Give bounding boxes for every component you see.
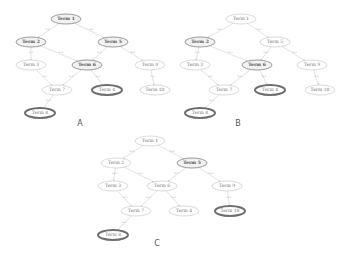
node-term-5: Term 5 <box>177 158 207 168</box>
node-term-1: Term 1 <box>135 136 165 146</box>
edge-label: is-a <box>46 99 51 102</box>
node-term-4: Term 4 <box>92 85 122 95</box>
edge-label: is-a <box>89 28 94 31</box>
node-label: Term 6 <box>248 62 266 67</box>
panel-label-a: A <box>77 119 83 128</box>
edge-label: is-a <box>174 172 179 175</box>
node-label: Term 10 <box>146 87 165 92</box>
edge-label: is-a <box>29 51 34 54</box>
edge-label: is-a <box>97 51 102 54</box>
node-label: Term 4 <box>262 87 278 92</box>
node-term-4: Term 4 <box>255 85 285 95</box>
nodes-layer: Term 1Term 2Term 5Term 3Term 6Term 9Term… <box>16 14 335 240</box>
node-term-9: Term 9 <box>297 60 327 70</box>
edge-label: is-a <box>43 75 48 78</box>
node-label: Term 1 <box>233 16 249 21</box>
node-label: Term 1 <box>57 16 75 21</box>
node-label: Term 8 <box>192 110 208 115</box>
node-label: Term 9 <box>142 62 158 67</box>
node-term-6: Term 6 <box>242 60 272 70</box>
node-term-6: Term 6 <box>147 181 177 191</box>
panel-label-c: C <box>154 239 160 248</box>
node-term-3: Term 3 <box>98 181 128 191</box>
edge-label: is-a <box>237 75 242 78</box>
node-label: Term 5 <box>183 160 201 165</box>
node-term-6: Term 6 <box>72 60 102 70</box>
node-term-2: Term 2 <box>101 158 131 168</box>
node-label: Term 3 <box>23 62 39 67</box>
node-label: Term 8 <box>105 232 121 237</box>
edge-label: is-a <box>95 75 100 78</box>
edge-label: is-a <box>150 75 155 78</box>
diagram-canvas: is-ais-ais-ais-ais-ais-ais-ais-ais-ais-a… <box>0 0 341 259</box>
term-hierarchy-diagrams: is-ais-ais-ais-ais-ais-ais-ais-ais-ais-a… <box>0 0 341 259</box>
edge-label: is-a <box>130 51 135 54</box>
panel-label-b: B <box>235 119 241 128</box>
edge-label: is-a <box>130 150 135 153</box>
edge-label: is-a <box>263 51 268 54</box>
node-term-3: Term 3 <box>16 60 46 70</box>
node-label: Term 8 <box>32 110 48 115</box>
node-label: Term 6 <box>154 183 170 188</box>
node-label: Term 1 <box>142 138 158 143</box>
edge-label: is-a <box>138 172 143 175</box>
edge-label: is-a <box>170 150 175 153</box>
edge-label: is-a <box>217 28 222 31</box>
node-label: Term 10 <box>221 208 240 213</box>
node-term-1: Term 1 <box>51 14 81 24</box>
edge-label: is-a <box>195 51 200 54</box>
edge-label: is-a <box>262 75 267 78</box>
node-label: Term 7 <box>216 87 232 92</box>
node-label: Term 3 <box>187 62 203 67</box>
edge-label: is-a <box>208 172 213 175</box>
node-label: Term 2 <box>191 39 209 44</box>
node-term-9: Term 9 <box>212 181 242 191</box>
node-label: Term 9 <box>304 62 320 67</box>
edge-label: is-a <box>257 28 262 31</box>
node-term-10: Term 10 <box>305 85 335 95</box>
edge-label: is-a <box>59 51 64 54</box>
node-label: Term 4 <box>99 87 115 92</box>
node-term-8: Term 8 <box>25 108 55 118</box>
edge-label: is-a <box>292 51 297 54</box>
node-label: Term 7 <box>128 208 144 213</box>
edge-label: is-a <box>171 196 176 199</box>
edge-label: is-a <box>228 51 233 54</box>
node-term-1: Term 1 <box>226 14 256 24</box>
node-term-7: Term 7 <box>42 85 72 95</box>
edge-label: is-a <box>112 172 117 175</box>
node-term-9: Term 9 <box>135 60 165 70</box>
node-label: Term 2 <box>22 39 40 44</box>
edges-layer: is-ais-ais-ais-ais-ais-ais-ais-ais-ais-a… <box>29 23 319 230</box>
node-term-8: Term 8 <box>185 108 215 118</box>
node-label: Term 6 <box>78 62 96 67</box>
node-term-3: Term 3 <box>180 60 210 70</box>
node-term-7: Term 7 <box>121 206 151 216</box>
edge-label: is-a <box>122 221 127 224</box>
node-label: Term 5 <box>267 39 283 44</box>
node-label: Term 7 <box>49 87 65 92</box>
node-label: Term 2 <box>108 160 124 165</box>
node-term-2: Term 2 <box>16 37 46 47</box>
node-term-5: Term 5 <box>260 37 290 47</box>
edge-label: is-a <box>209 99 214 102</box>
node-term-5: Term 5 <box>98 37 128 47</box>
node-term-10: Term 10 <box>215 206 245 216</box>
node-label: Term 10 <box>311 87 330 92</box>
edge-label: is-a <box>208 75 213 78</box>
node-label: Term 4 <box>176 208 192 213</box>
edge-label: is-a <box>69 75 74 78</box>
edge-label: is-a <box>45 28 50 31</box>
edge-label: is-a <box>123 196 128 199</box>
node-term-4: Term 4 <box>169 206 199 216</box>
edge-label: is-a <box>146 196 151 199</box>
edge-label: is-a <box>314 75 319 78</box>
node-label: Term 3 <box>105 183 121 188</box>
node-label: Term 5 <box>104 39 122 44</box>
node-term-8: Term 8 <box>98 230 128 240</box>
node-term-2: Term 2 <box>185 37 215 47</box>
node-term-10: Term 10 <box>140 85 170 95</box>
edge-label: is-a <box>226 196 231 199</box>
node-label: Term 9 <box>219 183 235 188</box>
node-term-7: Term 7 <box>209 85 239 95</box>
